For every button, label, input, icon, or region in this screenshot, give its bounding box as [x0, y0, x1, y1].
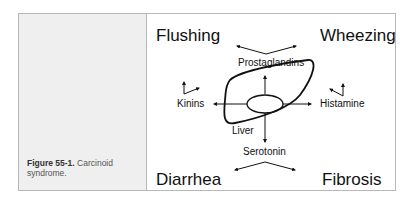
organ-liver: Liver [232, 125, 254, 136]
inner-ellipse [247, 95, 283, 113]
mediator-histamine: Histamine [320, 98, 364, 109]
mediator-serotonin: Serotonin [243, 146, 286, 157]
mediator-prostaglandins: Prostaglandins [238, 57, 304, 68]
symptom-flushing: Flushing [156, 26, 220, 46]
symptom-diarrhea: Diarrhea [156, 170, 221, 190]
symptom-wheezing: Wheezing [320, 26, 396, 46]
symptom-fibrosis: Fibrosis [322, 170, 382, 190]
liver-outline [224, 60, 313, 123]
mediator-kinins: Kinins [177, 98, 204, 109]
